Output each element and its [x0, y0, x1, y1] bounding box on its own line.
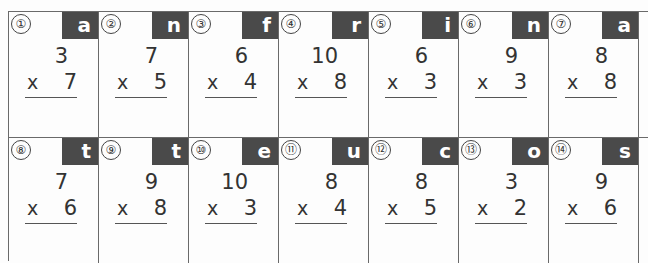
problem-cell[interactable]: ② n 7 x 5 [99, 12, 189, 137]
problem-cell[interactable]: ⑫ c 8 x 5 [369, 138, 459, 263]
problem-cell[interactable]: ⑥ n 9 x 3 [459, 12, 549, 137]
problem-cell[interactable]: ⑧ t 7 x 6 [9, 138, 99, 263]
problem-number: ⑥ [461, 14, 481, 34]
multiplier: 8 [334, 70, 347, 94]
code-letter-badge: u [332, 138, 368, 165]
problem-number: ⑫ [371, 140, 391, 160]
code-letter-badge: t [152, 138, 188, 165]
code-letter-badge: e [242, 138, 278, 165]
multiplicand: 7 [145, 44, 158, 68]
multiplier-line: x 4 [205, 70, 257, 94]
multiplier: 4 [244, 70, 257, 94]
problem-number: ④ [281, 14, 301, 34]
times-operator: x [115, 196, 128, 220]
multiplicand: 9 [505, 44, 518, 68]
problem-number: ③ [191, 14, 211, 34]
answer-line [565, 223, 617, 224]
problem-cell[interactable]: ⑪ u 8 x 4 [279, 138, 369, 263]
multiplicand: 9 [595, 170, 608, 194]
answer-line [115, 97, 167, 98]
multiplication-worksheet-grid: ① a 3 x 7 ② n 7 x 5 ③ f 6 x 4 ④ [8, 11, 648, 261]
times-operator: x [295, 70, 308, 94]
multiplier-line: x 4 [295, 196, 347, 220]
multiplier: 8 [604, 70, 617, 94]
multiplier-line: x 8 [115, 196, 167, 220]
problem-cell[interactable]: ⑦ a 8 x 8 [549, 12, 639, 137]
answer-line [295, 223, 347, 224]
code-letter-badge: c [422, 138, 458, 165]
problem-cell[interactable]: ⑨ t 9 x 8 [99, 138, 189, 263]
multiplier-line: x 3 [385, 70, 437, 94]
problem-cell[interactable]: ④ r 10 x 8 [279, 12, 369, 137]
code-letter-badge: a [602, 12, 638, 39]
code-letter-badge: a [62, 12, 98, 39]
problem-cell[interactable]: ① a 3 x 7 [9, 12, 99, 137]
multiplicand: 9 [145, 170, 158, 194]
answer-line [565, 97, 617, 98]
answer-line [475, 97, 527, 98]
multiplicand: 8 [415, 170, 428, 194]
problem-cell[interactable]: ⑭ s 9 x 6 [549, 138, 639, 263]
code-letter-badge: t [62, 138, 98, 165]
multiplier-line: x 6 [565, 196, 617, 220]
multiplicand: 3 [55, 44, 68, 68]
problem-cell[interactable]: ⑬ o 3 x 2 [459, 138, 549, 263]
multiplicand: 8 [325, 170, 338, 194]
problem-cell[interactable]: ⑤ i 6 x 3 [369, 12, 459, 137]
answer-line [115, 223, 167, 224]
problem-cell[interactable]: ⑩ e 10 x 3 [189, 138, 279, 263]
multiplier: 2 [514, 196, 527, 220]
multiplicand: 7 [55, 170, 68, 194]
multiplicand: 8 [595, 44, 608, 68]
multiplier: 3 [514, 70, 527, 94]
times-operator: x [565, 196, 578, 220]
times-operator: x [205, 196, 218, 220]
answer-line [25, 223, 77, 224]
times-operator: x [295, 196, 308, 220]
times-operator: x [385, 70, 398, 94]
answer-line [205, 97, 257, 98]
times-operator: x [205, 70, 218, 94]
multiplicand: 10 [221, 170, 248, 194]
problem-number: ⑩ [191, 140, 211, 160]
multiplier: 6 [604, 196, 617, 220]
answer-line [205, 223, 257, 224]
multiplier: 7 [64, 70, 77, 94]
times-operator: x [565, 70, 578, 94]
problem-number: ⑨ [101, 140, 121, 160]
times-operator: x [385, 196, 398, 220]
problem-number: ⑪ [281, 140, 301, 160]
multiplier-line: x 3 [475, 70, 527, 94]
multiplier-line: x 3 [205, 196, 257, 220]
multiplier-line: x 8 [295, 70, 347, 94]
multiplier-line: x 7 [25, 70, 77, 94]
multiplier: 5 [424, 196, 437, 220]
answer-line [475, 223, 527, 224]
multiplier: 3 [424, 70, 437, 94]
multiplier: 5 [154, 70, 167, 94]
multiplier: 6 [64, 196, 77, 220]
multiplier-line: x 5 [385, 196, 437, 220]
answer-line [385, 223, 437, 224]
code-letter-badge: f [242, 12, 278, 39]
problem-number: ⑭ [551, 140, 571, 160]
multiplier-line: x 5 [115, 70, 167, 94]
times-operator: x [115, 70, 128, 94]
problem-number: ② [101, 14, 121, 34]
code-letter-badge: o [512, 138, 548, 165]
multiplicand: 6 [235, 44, 248, 68]
problem-row: ① a 3 x 7 ② n 7 x 5 ③ f 6 x 4 ④ [9, 12, 648, 137]
multiplicand: 6 [415, 44, 428, 68]
times-operator: x [475, 196, 488, 220]
problem-cell[interactable]: ③ f 6 x 4 [189, 12, 279, 137]
multiplicand: 10 [311, 44, 338, 68]
times-operator: x [475, 70, 488, 94]
problem-row: ⑧ t 7 x 6 ⑨ t 9 x 8 ⑩ e 10 x 3 ⑪ [9, 137, 648, 263]
problem-number: ⑤ [371, 14, 391, 34]
code-letter-badge: r [332, 12, 368, 39]
multiplier-line: x 2 [475, 196, 527, 220]
multiplier: 4 [334, 196, 347, 220]
answer-line [385, 97, 437, 98]
multiplier: 3 [244, 196, 257, 220]
answer-line [25, 97, 77, 98]
